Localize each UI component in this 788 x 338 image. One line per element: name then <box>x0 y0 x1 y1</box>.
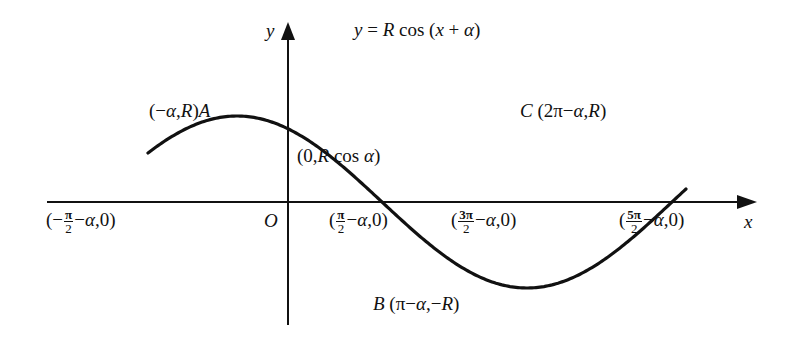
x-axis-label: x <box>744 212 752 231</box>
zero-3-label: (5π2−α,0) <box>619 208 684 235</box>
cosine-graph <box>0 0 788 338</box>
zero-1-label: (π2−α,0) <box>329 208 388 235</box>
y-axis-arrow-icon <box>281 22 295 40</box>
point-c-label: C (2π−α,R) <box>520 101 606 120</box>
point-a-label: (−α,R)A <box>149 101 210 120</box>
zero-2-label: (3π2−α,0) <box>451 208 516 235</box>
x-axis-arrow-icon <box>737 195 757 209</box>
y-intercept-label: (0,R cos α) <box>297 146 380 165</box>
zero-left-label: (−π2−α,0) <box>46 208 115 235</box>
origin-label: O <box>264 211 278 230</box>
equation-title: y = R cos (x + α) <box>354 20 480 39</box>
y-axis-label: y <box>266 21 274 40</box>
point-b-label: B (π−α,−R) <box>373 294 459 313</box>
